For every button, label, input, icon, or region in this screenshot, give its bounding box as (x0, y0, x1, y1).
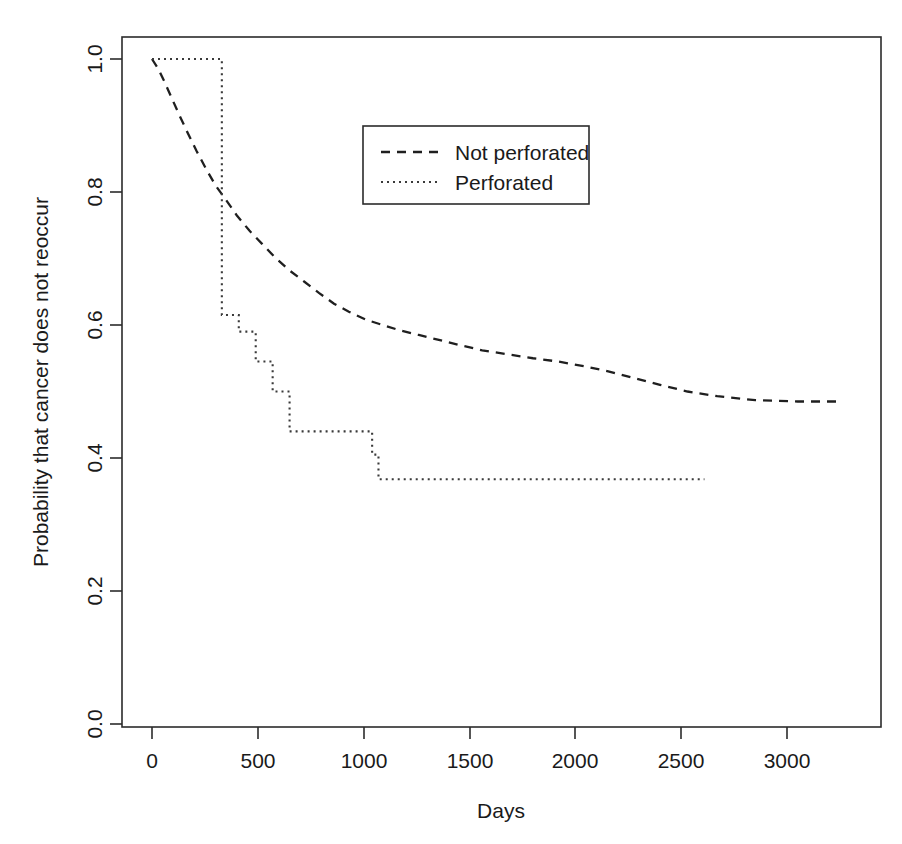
x-ticklabel-5: 2500 (658, 749, 705, 772)
x-ticklabel-4: 2000 (552, 749, 599, 772)
y-ticklabel-2: 0.4 (83, 443, 106, 473)
curve-perforated (152, 59, 704, 479)
y-axis-ticks (110, 59, 122, 724)
x-ticklabel-3: 1500 (447, 749, 494, 772)
legend: Not perforated Perforated (363, 126, 589, 204)
y-ticklabel-0: 0.0 (83, 709, 106, 738)
x-axis-ticks (152, 727, 787, 739)
x-ticklabel-6: 3000 (764, 749, 811, 772)
y-axis-title: Probability that cancer does not reoccur (29, 197, 52, 567)
legend-label-not-perforated: Not perforated (455, 141, 589, 164)
y-ticklabel-4: 0.8 (83, 177, 106, 206)
x-ticklabel-2: 1000 (341, 749, 388, 772)
y-ticklabel-5: 1.0 (83, 44, 106, 73)
data-curves (152, 59, 840, 479)
figure-root: 1.0 0.8 0.6 0.4 0.2 0.0 0 500 1000 1500 … (0, 0, 902, 844)
kaplan-meier-chart: 1.0 0.8 0.6 0.4 0.2 0.0 0 500 1000 1500 … (0, 0, 902, 844)
curve-not-perforated (152, 59, 840, 401)
x-ticklabel-1: 500 (240, 749, 275, 772)
y-ticklabel-3: 0.6 (83, 310, 106, 339)
x-axis-title: Days (477, 799, 525, 822)
x-axis-tick-labels: 0 500 1000 1500 2000 2500 3000 (146, 749, 810, 772)
x-ticklabel-0: 0 (146, 749, 158, 772)
y-ticklabel-1: 0.2 (83, 576, 106, 605)
legend-label-perforated: Perforated (455, 171, 553, 194)
y-axis-tick-labels: 1.0 0.8 0.6 0.4 0.2 0.0 (83, 44, 106, 738)
